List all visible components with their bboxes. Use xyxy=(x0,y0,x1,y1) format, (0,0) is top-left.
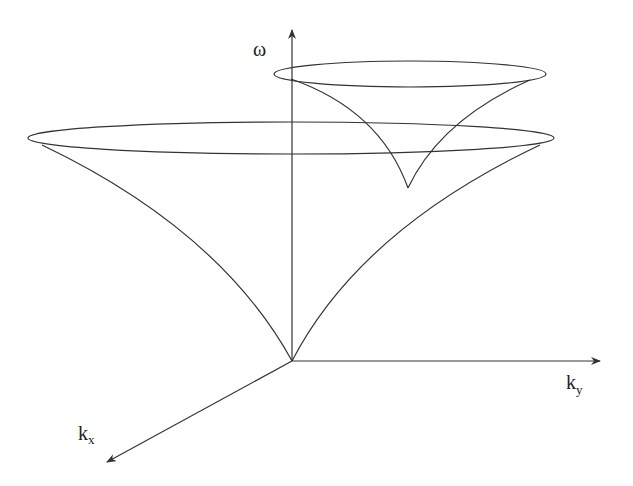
dispersion-diagram: ω ky kx xyxy=(0,0,633,486)
large-cone-rim xyxy=(28,122,554,154)
small-cone-rim xyxy=(274,61,546,87)
ky-label: ky xyxy=(566,371,583,397)
small-cone-right-side xyxy=(408,80,530,188)
ky-label-main: k xyxy=(566,371,576,393)
large-cone-left-side xyxy=(42,145,292,361)
kx-label-sub: x xyxy=(88,432,95,447)
kx-label: kx xyxy=(78,422,95,447)
omega-label: ω xyxy=(253,38,266,60)
kx-axis xyxy=(107,361,292,462)
large-cone-right-side xyxy=(292,145,540,361)
ky-label-sub: y xyxy=(576,382,583,397)
kx-label-main: k xyxy=(78,422,88,444)
small-cone-left-side xyxy=(291,79,408,188)
